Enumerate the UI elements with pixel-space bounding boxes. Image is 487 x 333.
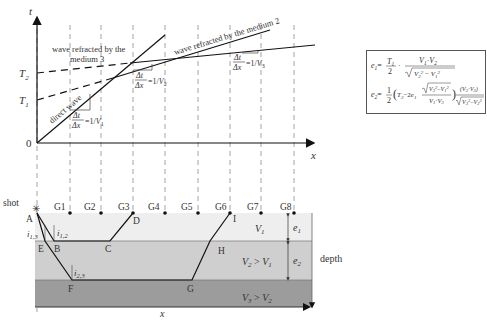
svg-text:1: 1 bbox=[387, 86, 391, 95]
subsurface-model: G1 G2 G3 G4 G5 G6 G7 G8 shot ✳ ABC DEF G… bbox=[3, 198, 342, 319]
formulas: e1= T1 2 · V1·V2 V22 − V12 e2= 1 2 ( T2−… bbox=[367, 51, 485, 113]
time-distance-chart: t x 0 T2 T1 direct wave wave refracted b… bbox=[19, 5, 316, 161]
svg-text:G7: G7 bbox=[247, 202, 259, 212]
svg-text:G4: G4 bbox=[148, 202, 160, 212]
svg-text:2: 2 bbox=[387, 96, 391, 105]
svg-text:V32−V22: V32−V22 bbox=[462, 98, 482, 106]
layer-1 bbox=[35, 213, 312, 241]
svg-text:): ) bbox=[452, 87, 456, 101]
svg-text:T1: T1 bbox=[387, 57, 394, 67]
svg-text:H: H bbox=[218, 246, 225, 256]
svg-text:G2: G2 bbox=[84, 202, 96, 212]
svg-text:Δt: Δt bbox=[72, 111, 81, 120]
svg-text:D: D bbox=[133, 216, 140, 226]
svg-text:Δx: Δx bbox=[71, 121, 81, 130]
origin-label: 0 bbox=[26, 137, 32, 149]
svg-text:C: C bbox=[105, 244, 111, 254]
svg-text:Δx: Δx bbox=[134, 81, 144, 90]
refracted-medium-3-extrapolation bbox=[37, 63, 130, 73]
medium-3-label-line1: wave refracted by the bbox=[52, 44, 126, 54]
svg-text:e2=: e2= bbox=[371, 90, 382, 100]
refracted-medium-3-line bbox=[130, 45, 315, 63]
svg-text:V32−V12: V32−V12 bbox=[429, 85, 449, 93]
svg-text:(V2·V3): (V2·V3) bbox=[460, 86, 478, 93]
svg-text:G3: G3 bbox=[118, 202, 130, 212]
slope-label-v2: Δt Δx =1/V2 bbox=[134, 71, 167, 90]
svg-text:G5: G5 bbox=[181, 202, 193, 212]
svg-text:Δx: Δx bbox=[232, 63, 242, 72]
svg-text:2: 2 bbox=[388, 67, 392, 76]
svg-text:G1: G1 bbox=[54, 202, 66, 212]
svg-text:T2−2e1: T2−2e1 bbox=[397, 91, 416, 100]
x-label-bottom: x bbox=[159, 308, 165, 319]
geophone-labels: G1 G2 G3 G4 G5 G6 G7 G8 bbox=[54, 202, 292, 212]
formula-box: e1= T1 2 · V1·V2 V22 − V12 e2= 1 2 ( T2−… bbox=[366, 50, 486, 114]
svg-text:E: E bbox=[38, 244, 44, 254]
shot-star-icon: ✳ bbox=[32, 203, 40, 214]
svg-text:G6: G6 bbox=[215, 202, 227, 212]
svg-text:e1=: e1= bbox=[371, 61, 382, 71]
svg-text:V1·V3: V1·V3 bbox=[429, 97, 444, 105]
slope-label-v1: Δt Δx =1/V1 bbox=[71, 111, 104, 130]
svg-text:Δt: Δt bbox=[233, 53, 242, 62]
svg-text:I: I bbox=[233, 214, 236, 224]
svg-text:=1/V3: =1/V3 bbox=[246, 59, 265, 69]
svg-text:A: A bbox=[26, 214, 33, 224]
medium-3-label-line2: medium 3 bbox=[70, 54, 104, 64]
slope-label-v3: Δt Δx =1/V3 bbox=[232, 53, 265, 72]
svg-text:F: F bbox=[68, 284, 73, 294]
x-axis-label: x bbox=[310, 149, 316, 161]
svg-text:=1/V2: =1/V2 bbox=[148, 77, 167, 87]
T2-label: T2 bbox=[19, 67, 29, 82]
t-axis-label: t bbox=[29, 5, 33, 17]
svg-text:V1·V2: V1·V2 bbox=[419, 56, 437, 66]
svg-text:B: B bbox=[54, 244, 60, 254]
medium-2-label: wave refracted by the medium 2 bbox=[173, 15, 281, 57]
shot-label: shot bbox=[3, 198, 19, 208]
svg-text:G8: G8 bbox=[280, 202, 292, 212]
T1-label: T1 bbox=[19, 94, 29, 109]
svg-text:G: G bbox=[187, 284, 194, 294]
svg-text:V22 − V12: V22 − V12 bbox=[414, 70, 441, 79]
svg-text:·: · bbox=[398, 61, 401, 70]
svg-text:Δt: Δt bbox=[135, 71, 144, 80]
depth-label: depth bbox=[320, 253, 342, 264]
